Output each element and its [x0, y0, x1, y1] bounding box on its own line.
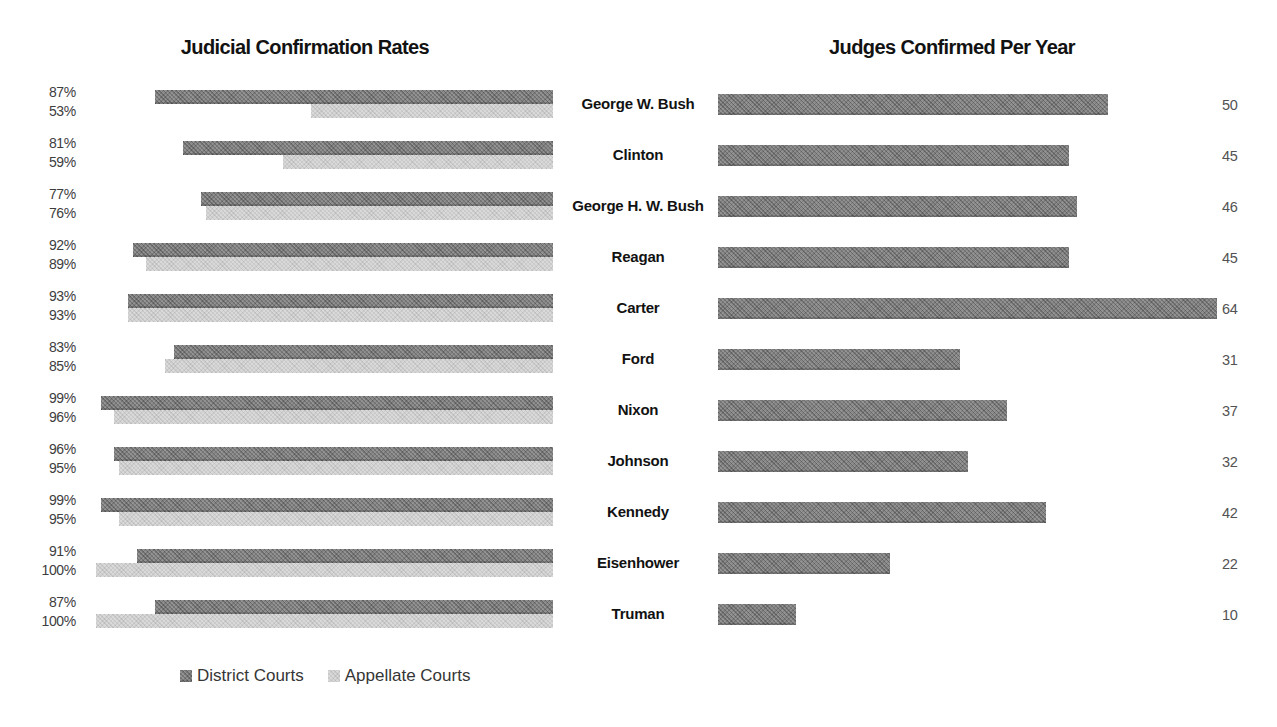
- judges-per-year-value-label: 45: [1222, 250, 1268, 266]
- judges-per-year-value-label: 31: [1222, 352, 1268, 368]
- judges-per-year-bar: [718, 451, 968, 472]
- judges-per-year-value-label: 37: [1222, 403, 1268, 419]
- district-rate-label: 92%: [14, 238, 76, 253]
- appellate-rate-label: 53%: [14, 104, 76, 119]
- district-rate-label: 99%: [14, 391, 76, 406]
- president-label: Eisenhower: [545, 554, 731, 571]
- president-label: Clinton: [545, 146, 731, 163]
- appellate-courts-swatch-icon: [328, 670, 340, 682]
- appellate-rate-label: 59%: [14, 155, 76, 170]
- president-label: George H. W. Bush: [545, 197, 731, 214]
- district-courts-bar: [114, 447, 553, 461]
- district-courts-bar: [128, 294, 553, 308]
- figure-canvas: Judicial Confirmation Rates Judges Confi…: [0, 0, 1277, 727]
- left-chart-title: Judicial Confirmation Rates: [95, 36, 515, 59]
- district-rate-label: 99%: [14, 493, 76, 508]
- district-rate-label: 77%: [14, 187, 76, 202]
- legend-item-appellate-courts: Appellate Courts: [328, 666, 471, 686]
- appellate-courts-bar: [119, 461, 553, 475]
- judges-per-year-value-label: 50: [1222, 97, 1268, 113]
- judges-per-year-value-label: 42: [1222, 505, 1268, 521]
- president-label: Kennedy: [545, 503, 731, 520]
- appellate-courts-bar: [96, 563, 553, 577]
- judges-per-year-value-label: 32: [1222, 454, 1268, 470]
- president-label: Johnson: [545, 452, 731, 469]
- district-rate-label: 96%: [14, 442, 76, 457]
- legend-label-district-courts: District Courts: [197, 666, 304, 686]
- district-courts-bar: [101, 396, 553, 410]
- district-courts-bar: [133, 243, 553, 257]
- appellate-courts-bar: [146, 257, 553, 271]
- appellate-rate-label: 89%: [14, 257, 76, 272]
- legend-item-district-courts: District Courts: [180, 666, 304, 686]
- district-courts-swatch-icon: [180, 670, 192, 682]
- district-courts-bar: [155, 600, 553, 614]
- district-courts-bar: [155, 90, 553, 104]
- judges-per-year-bar: [718, 298, 1217, 319]
- president-label: Ford: [545, 350, 731, 367]
- president-label: George W. Bush: [545, 95, 731, 112]
- president-label: Reagan: [545, 248, 731, 265]
- appellate-courts-bar: [119, 512, 553, 526]
- appellate-rate-label: 100%: [14, 614, 76, 629]
- judges-per-year-bar: [718, 604, 796, 625]
- appellate-courts-bar: [114, 410, 553, 424]
- appellate-rate-label: 95%: [14, 461, 76, 476]
- judges-per-year-bar: [718, 145, 1069, 166]
- district-rate-label: 83%: [14, 340, 76, 355]
- judges-per-year-value-label: 64: [1222, 301, 1268, 317]
- district-rate-label: 91%: [14, 544, 76, 559]
- district-courts-bar: [101, 498, 553, 512]
- district-courts-bar: [137, 549, 553, 563]
- right-chart-title: Judges Confirmed Per Year: [742, 36, 1162, 59]
- district-rate-label: 81%: [14, 136, 76, 151]
- appellate-courts-bar: [206, 206, 553, 220]
- district-rate-label: 87%: [14, 85, 76, 100]
- district-rate-label: 93%: [14, 289, 76, 304]
- legend-label-appellate-courts: Appellate Courts: [345, 666, 471, 686]
- judges-per-year-value-label: 46: [1222, 199, 1268, 215]
- judges-per-year-bar: [718, 400, 1007, 421]
- judges-per-year-value-label: 22: [1222, 556, 1268, 572]
- judges-per-year-bar: [718, 349, 960, 370]
- appellate-courts-bar: [311, 104, 553, 118]
- appellate-rate-label: 85%: [14, 359, 76, 374]
- president-label: Carter: [545, 299, 731, 316]
- judges-per-year-bar: [718, 196, 1077, 217]
- president-label: Nixon: [545, 401, 731, 418]
- judges-per-year-bar: [718, 502, 1046, 523]
- judges-per-year-bar: [718, 94, 1108, 115]
- appellate-rate-label: 76%: [14, 206, 76, 221]
- appellate-rate-label: 95%: [14, 512, 76, 527]
- district-courts-bar: [201, 192, 553, 206]
- judges-per-year-value-label: 10: [1222, 607, 1268, 623]
- appellate-courts-bar: [96, 614, 553, 628]
- judges-per-year-bar: [718, 247, 1069, 268]
- legend: District Courts Appellate Courts: [180, 666, 470, 686]
- judges-per-year-bar: [718, 553, 890, 574]
- appellate-rate-label: 100%: [14, 563, 76, 578]
- president-label: Truman: [545, 605, 731, 622]
- appellate-courts-bar: [165, 359, 553, 373]
- appellate-rate-label: 96%: [14, 410, 76, 425]
- district-rate-label: 87%: [14, 595, 76, 610]
- judges-per-year-value-label: 45: [1222, 148, 1268, 164]
- appellate-rate-label: 93%: [14, 308, 76, 323]
- appellate-courts-bar: [128, 308, 553, 322]
- district-courts-bar: [174, 345, 553, 359]
- appellate-courts-bar: [283, 155, 553, 169]
- district-courts-bar: [183, 141, 553, 155]
